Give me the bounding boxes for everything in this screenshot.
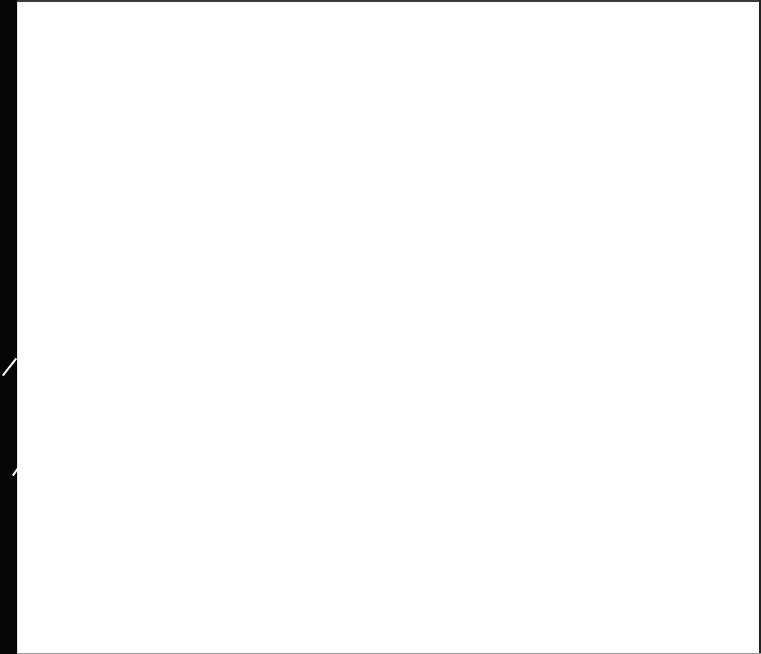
screen-frame <box>0 0 761 654</box>
blank-page <box>17 2 760 653</box>
left-dark-strip <box>0 0 17 654</box>
